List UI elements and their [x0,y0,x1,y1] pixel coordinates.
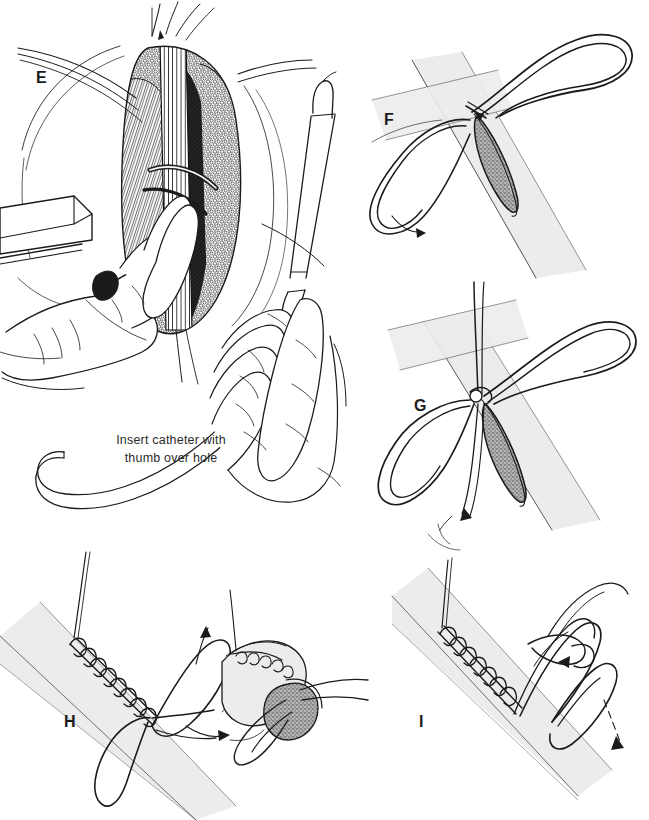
panel-i-artwork [392,558,628,800]
panel-h-artwork [0,552,368,820]
panel-f-artwork [368,35,632,278]
panel-label-f: F [384,112,394,128]
panel-label-e: E [36,70,47,86]
panel-g-artwork [378,282,636,550]
panel-h-inset-cross-section [222,590,368,765]
panel-label-i: I [419,714,424,730]
surgical-figure-plate: E F G H I Insert catheter with thumb ove… [0,0,649,820]
figure-artwork [0,0,649,820]
panel-label-h: H [64,714,76,730]
panel-label-g: G [414,398,427,414]
catheter-insertion-caption: Insert catheter with thumb over hole [108,431,234,467]
